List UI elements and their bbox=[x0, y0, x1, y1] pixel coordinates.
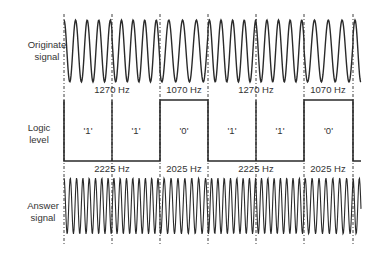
bit-value-label: '1' bbox=[84, 125, 93, 136]
originate-frequency-label: 1070 Hz bbox=[166, 84, 201, 95]
logic-level-waveform bbox=[64, 100, 361, 161]
bit-value-label: '0' bbox=[324, 125, 333, 136]
bit-value-label: '1' bbox=[276, 125, 285, 136]
answer-waveform bbox=[64, 178, 361, 234]
originate-frequency-label: 1270 Hz bbox=[94, 84, 129, 95]
originate-frequency-label: 1270 Hz bbox=[238, 84, 273, 95]
answer-frequency-label: 2025 Hz bbox=[166, 163, 201, 174]
bit-value-label: '0' bbox=[180, 125, 189, 136]
originate-waveform bbox=[64, 20, 361, 82]
answer-frequency-label: 2225 Hz bbox=[94, 163, 129, 174]
answer-frequency-label: 2025 Hz bbox=[310, 163, 345, 174]
bit-value-label: '1' bbox=[132, 125, 141, 136]
answer-frequency-label: 2225 Hz bbox=[238, 163, 273, 174]
bit-value-label: '1' bbox=[228, 125, 237, 136]
originate-frequency-label: 1070 Hz bbox=[310, 84, 345, 95]
